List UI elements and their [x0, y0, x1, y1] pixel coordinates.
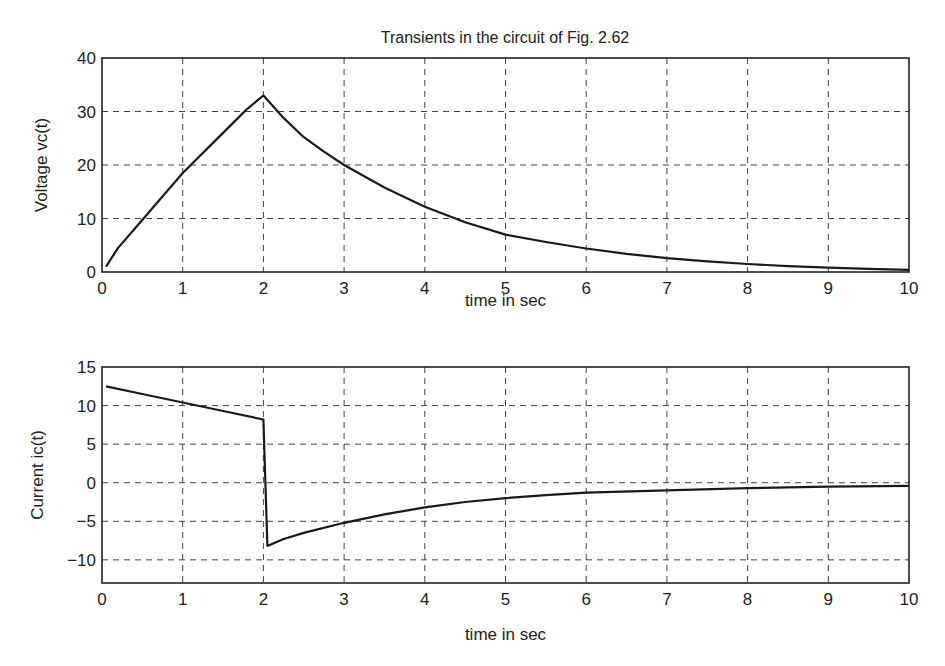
current-x-tick-label: 5	[501, 590, 510, 609]
voltage-x-tick-label: 9	[824, 279, 833, 298]
current-x-tick-label: 0	[97, 590, 106, 609]
current-y-tick-label: 10	[77, 397, 96, 416]
current-y-tick-label: 15	[77, 358, 96, 377]
current-y-tick-label: −5	[77, 512, 96, 531]
voltage-y-tick-label: 20	[77, 156, 96, 175]
voltage-y-tick-label: 30	[77, 103, 96, 122]
voltage-x-axis-label: time in sec	[465, 291, 547, 310]
current-y-tick-label: 5	[87, 435, 96, 454]
voltage-x-tick-label: 3	[339, 279, 348, 298]
voltage-plot: 012345678910 010203040 time in sec Volta…	[32, 49, 918, 310]
voltage-x-tick-label: 2	[259, 279, 268, 298]
voltage-x-tick-label: 4	[420, 279, 429, 298]
voltage-x-tick-label: 6	[581, 279, 590, 298]
current-series-line	[106, 386, 909, 546]
voltage-x-tick-label: 8	[743, 279, 752, 298]
voltage-series-line	[106, 96, 909, 270]
current-x-tick-label: 1	[178, 590, 187, 609]
current-x-tick-label: 10	[900, 590, 919, 609]
current-plot-frame	[102, 367, 909, 583]
current-x-tick-label: 4	[420, 590, 429, 609]
voltage-y-axis-label: Voltage vc(t)	[32, 118, 51, 213]
voltage-x-tick-label: 1	[178, 279, 187, 298]
voltage-y-tick-label: 0	[87, 263, 96, 282]
current-grid	[102, 367, 909, 583]
voltage-y-tick-label: 40	[77, 49, 96, 68]
current-x-tick-label: 3	[339, 590, 348, 609]
voltage-x-tick-label: 7	[662, 279, 671, 298]
current-plot: 012345678910 151050−10−5 time in sec Cur…	[28, 358, 918, 644]
voltage-y-tick-label: 10	[77, 210, 96, 229]
current-x-tick-label: 9	[824, 590, 833, 609]
current-y-tick-label: 0	[87, 474, 96, 493]
current-x-tick-label: 7	[662, 590, 671, 609]
current-y-axis-label: Current ic(t)	[28, 430, 47, 520]
current-x-tick-label: 6	[581, 590, 590, 609]
current-y-ticks: 151050−10−5	[67, 358, 96, 570]
current-y-tick-label: −10	[67, 551, 96, 570]
chart-title: Transients in the circuit of Fig. 2.62	[381, 29, 630, 46]
current-x-axis-label: time in sec	[465, 625, 547, 644]
current-x-tick-label: 8	[743, 590, 752, 609]
voltage-x-tick-label: 10	[900, 279, 919, 298]
voltage-x-tick-label: 0	[97, 279, 106, 298]
voltage-y-ticks: 010203040	[77, 49, 96, 282]
chart-figure: Transients in the circuit of Fig. 2.62 0…	[0, 0, 945, 666]
current-x-tick-label: 2	[259, 590, 268, 609]
voltage-grid	[102, 58, 909, 272]
current-x-ticks: 012345678910	[97, 590, 918, 609]
